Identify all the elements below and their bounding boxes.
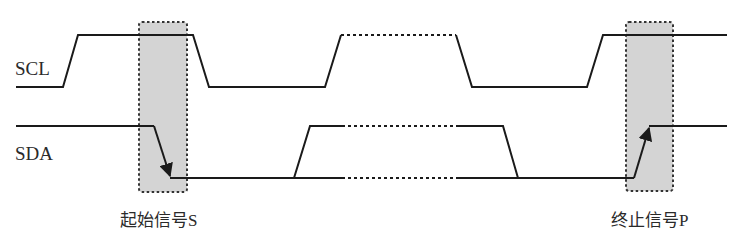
sda-rise-data bbox=[294, 126, 342, 178]
start-condition-caption: 起始信号S bbox=[120, 211, 197, 230]
stop-condition-caption: 终止信号P bbox=[611, 211, 688, 230]
i2c-timing-diagram: SCL SDA 起始信号S 终止信号P bbox=[0, 0, 743, 245]
stop-condition-box bbox=[626, 22, 673, 191]
scl-waveform bbox=[16, 35, 727, 87]
start-condition-box bbox=[139, 22, 187, 192]
sda-label: SDA bbox=[15, 143, 53, 164]
sda-waveform bbox=[16, 126, 727, 178]
scl-solid-segment bbox=[456, 35, 727, 87]
highlight-boxes bbox=[139, 22, 673, 192]
sda-fall-data bbox=[456, 126, 518, 178]
scl-label: SCL bbox=[15, 58, 50, 79]
